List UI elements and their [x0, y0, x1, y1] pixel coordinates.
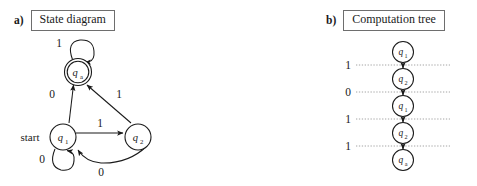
self-loop-label-q1: 0	[39, 153, 45, 165]
state-node-qa-label: q	[73, 67, 78, 78]
state-node-q1[interactable]: q 1	[50, 124, 76, 150]
edge-q1-to-q2: 1	[76, 117, 123, 133]
edge-label-q1-qa: 0	[49, 88, 55, 100]
panel-state-diagram: a) State diagram 0 1 1 0	[0, 0, 160, 186]
state-node-q1-subscript: 1	[65, 138, 68, 145]
state-node-q2-circle	[125, 124, 151, 150]
state-node-qa-inner	[67, 61, 89, 83]
edge-q1-to-qa: 0	[49, 85, 73, 123]
self-loop-q1: 0	[39, 149, 74, 170]
edge-q2-to-q1: 0	[78, 146, 147, 178]
edge-label-q1-q2: 1	[97, 117, 103, 129]
edge-label-q2-q1: 0	[98, 166, 104, 178]
state-node-q2[interactable]: q 2	[125, 124, 151, 150]
state-node-q2-label: q	[133, 132, 138, 143]
self-loop-label-qa: 1	[56, 37, 62, 49]
edge-label-q2-qa: 1	[116, 88, 122, 100]
state-node-q1-circle	[50, 124, 76, 150]
start-label: start	[21, 131, 40, 143]
state-node-q2-subscript: 2	[140, 138, 144, 145]
state-node-qa-subscript: a	[80, 73, 83, 80]
edge-q2-to-qa: 1	[87, 85, 131, 123]
panel-computation-tree: b) Computation tree 1 0 1 1	[160, 0, 305, 186]
panel-transition-function: c) Transition function q x δ(q, x) q1 0 …	[305, 0, 477, 186]
state-diagram-graphic: 0 1 1 0 1 0 start	[0, 0, 160, 186]
state-node-q1-label: q	[58, 132, 63, 143]
state-node-qa[interactable]: q a	[65, 59, 92, 86]
